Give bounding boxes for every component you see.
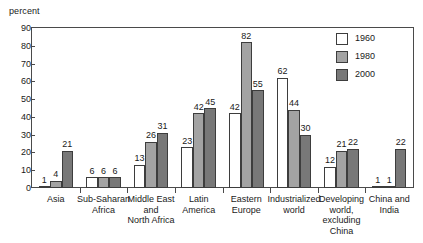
bar-value-label: 1 bbox=[387, 176, 392, 185]
bar-value-label: 44 bbox=[289, 99, 299, 108]
bar-1960 bbox=[181, 147, 193, 188]
x-tick-mark bbox=[318, 188, 319, 193]
bar-value-label: 23 bbox=[182, 137, 192, 146]
bar-slot: 6 bbox=[98, 28, 110, 188]
bar-value-label: 6 bbox=[112, 167, 117, 176]
bar-value-label: 55 bbox=[253, 80, 263, 89]
bar-1960 bbox=[229, 113, 241, 188]
bar-slot: 55 bbox=[252, 28, 264, 188]
y-tick-label: 80 bbox=[11, 41, 31, 50]
bar-value-label: 21 bbox=[62, 140, 72, 149]
bar-2000 bbox=[204, 108, 216, 188]
x-tick-mark bbox=[270, 188, 271, 193]
bar-1960 bbox=[372, 186, 384, 188]
bar-slot: 30 bbox=[300, 28, 312, 188]
y-tick-mark bbox=[31, 64, 35, 65]
x-tick-mark bbox=[365, 188, 366, 193]
y-tick-label: 70 bbox=[11, 59, 31, 68]
bar-group: 624430 bbox=[277, 28, 312, 188]
bar-value-label: 21 bbox=[337, 140, 347, 149]
y-tick-mark bbox=[31, 46, 35, 47]
y-tick-label: 40 bbox=[11, 112, 31, 121]
y-tick-label: 10 bbox=[11, 166, 31, 175]
bar-2000 bbox=[347, 149, 359, 188]
bar-value-label: 31 bbox=[158, 122, 168, 131]
x-tick-mark bbox=[223, 188, 224, 193]
y-tick-mark bbox=[31, 170, 35, 171]
bar-slot: 62 bbox=[277, 28, 289, 188]
bar-value-label: 30 bbox=[300, 124, 310, 133]
y-tick-label: 20 bbox=[11, 148, 31, 157]
legend-item-1960: 1960 bbox=[336, 32, 414, 45]
bar-slot: 23 bbox=[181, 28, 193, 188]
bar-value-label: 1 bbox=[42, 176, 47, 185]
bar-value-label: 4 bbox=[53, 170, 58, 179]
bar-2000 bbox=[395, 149, 407, 188]
bar-slot: 13 bbox=[134, 28, 146, 188]
bar-value-label: 62 bbox=[277, 67, 287, 76]
legend-swatch-icon bbox=[336, 33, 348, 45]
bar-value-label: 22 bbox=[396, 138, 406, 147]
bar-value-label: 22 bbox=[348, 138, 358, 147]
x-tick-mark bbox=[127, 188, 128, 193]
bar-slot: 44 bbox=[288, 28, 300, 188]
bar-1980 bbox=[383, 186, 395, 188]
bar-slot: 6 bbox=[86, 28, 98, 188]
bar-chart: percent 0102030405060708090 142166613263… bbox=[0, 0, 423, 243]
y-tick-label: 0 bbox=[11, 184, 31, 193]
y-tick-mark bbox=[31, 117, 35, 118]
bar-slot: 31 bbox=[157, 28, 169, 188]
legend-item-2000: 2000 bbox=[336, 68, 414, 81]
y-tick-mark bbox=[31, 81, 35, 82]
bar-2000 bbox=[109, 177, 121, 188]
bar-slot: 12 bbox=[324, 28, 336, 188]
bar-group: 132631 bbox=[134, 28, 169, 188]
bar-slot: 26 bbox=[145, 28, 157, 188]
bar-1960 bbox=[86, 177, 98, 188]
y-axis: 0102030405060708090 bbox=[5, 0, 31, 243]
bar-value-label: 12 bbox=[325, 156, 335, 165]
bar-slot: 6 bbox=[109, 28, 121, 188]
bar-value-label: 26 bbox=[146, 131, 156, 140]
bar-1980 bbox=[98, 177, 110, 188]
x-tick-mark bbox=[80, 188, 81, 193]
bar-value-label: 42 bbox=[194, 103, 204, 112]
x-category-label: China and India bbox=[359, 194, 419, 215]
bar-value-label: 6 bbox=[101, 167, 106, 176]
bar-slot: 42 bbox=[229, 28, 241, 188]
y-tick-label: 60 bbox=[11, 77, 31, 86]
bar-group: 428255 bbox=[229, 28, 264, 188]
bar-value-label: 42 bbox=[230, 103, 240, 112]
y-tick-mark bbox=[31, 135, 35, 136]
bar-slot: 1 bbox=[39, 28, 51, 188]
bar-slot: 21 bbox=[62, 28, 74, 188]
y-tick-mark bbox=[31, 152, 35, 153]
legend-label: 2000 bbox=[355, 70, 375, 79]
bar-value-label: 6 bbox=[89, 167, 94, 176]
bar-group: 234245 bbox=[181, 28, 216, 188]
bar-1980 bbox=[50, 181, 62, 188]
bar-1960 bbox=[277, 78, 289, 188]
y-tick-mark bbox=[31, 99, 35, 100]
y-tick-label: 30 bbox=[11, 130, 31, 139]
bar-1980 bbox=[336, 151, 348, 188]
bar-2000 bbox=[300, 135, 312, 188]
bar-slot: 82 bbox=[241, 28, 253, 188]
bar-group: 666 bbox=[86, 28, 121, 188]
bar-value-label: 45 bbox=[205, 98, 215, 107]
bar-value-label: 13 bbox=[135, 154, 145, 163]
bar-value-label: 82 bbox=[241, 32, 251, 41]
bar-1980 bbox=[288, 110, 300, 188]
bar-1960 bbox=[134, 165, 146, 188]
bar-1980 bbox=[241, 42, 253, 188]
legend-swatch-icon bbox=[336, 51, 348, 63]
chart-legend: 196019802000 bbox=[336, 32, 414, 86]
bar-2000 bbox=[157, 133, 169, 188]
bar-value-label: 1 bbox=[375, 176, 380, 185]
bar-2000 bbox=[62, 151, 74, 188]
bar-1980 bbox=[145, 142, 157, 188]
bar-1960 bbox=[324, 167, 336, 188]
x-tick-mark bbox=[175, 188, 176, 193]
legend-swatch-icon bbox=[336, 69, 348, 81]
bar-slot: 42 bbox=[193, 28, 205, 188]
